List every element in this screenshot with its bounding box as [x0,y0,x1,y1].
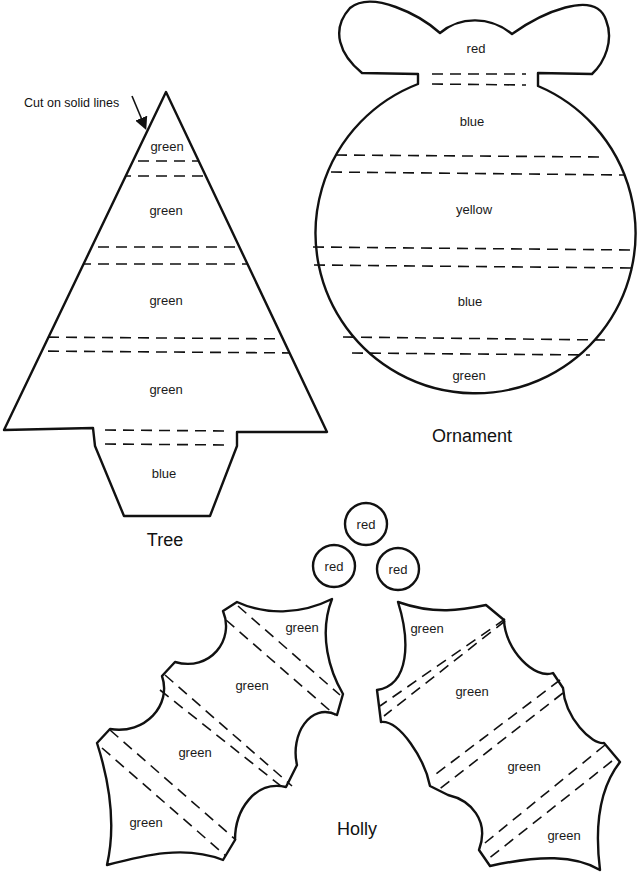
berry-label: red [357,517,376,532]
tree-section-label: green [149,382,182,397]
craft-template-sheet [0,0,638,884]
holly-left-label: green [285,620,318,635]
holly-left-label: green [235,678,268,693]
holly-left-label: green [178,745,211,760]
berry-label: red [389,562,408,577]
holly-right-label: green [455,684,488,699]
ornament-title: Ornament [432,426,512,447]
instruction-text: Cut on solid lines [24,96,119,110]
ornament-section-label: blue [458,294,483,309]
ornament-section-label: green [452,368,485,383]
ornament-cutout [313,2,636,394]
ornament-outline [316,2,636,394]
tree-section-label: blue [152,466,177,481]
holly-left-label: green [129,815,162,830]
tree-section-label: green [150,139,183,154]
holly-right-outline [377,602,620,870]
tree-title: Tree [147,530,183,551]
ornament-section-label: yellow [456,202,492,217]
holly-right-label: green [547,828,580,843]
ornament-section-label: blue [460,114,485,129]
holly-right-leaf [377,602,620,870]
holly-right-label: green [507,759,540,774]
ornament-section-label: red [467,41,486,56]
tree-section-label: green [149,203,182,218]
holly-title: Holly [337,819,377,840]
tree-section-label: green [149,293,182,308]
berry-label: red [325,559,344,574]
holly-right-label: green [410,621,443,636]
arrow-icon [132,96,145,127]
